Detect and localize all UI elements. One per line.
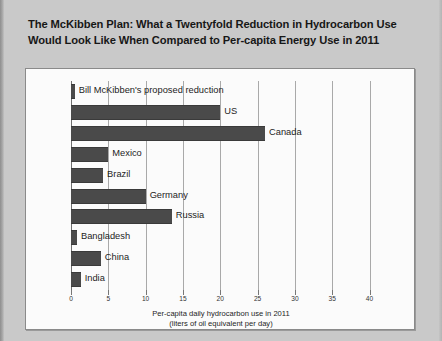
bar-row: China (71, 248, 377, 269)
tick-label-30: 30 (291, 295, 298, 302)
bar-canada (71, 126, 265, 141)
bar-row: India (71, 269, 377, 290)
bar-label: US (224, 104, 237, 118)
x-axis-tick-labels: 0510152025303540 (71, 295, 377, 307)
bar-india (71, 272, 81, 287)
figure-title: The McKibben Plan: What a Twentyfold Red… (28, 16, 428, 48)
bar-germany (71, 189, 146, 204)
tick-label-40: 40 (366, 295, 373, 302)
bar-label: India (85, 271, 105, 285)
tick-label-15: 15 (179, 295, 186, 302)
bar-label: Mexico (112, 146, 141, 160)
x-axis-caption-units: (liters of oil equivalent per day) (26, 319, 416, 329)
plot-area: Bill McKibben's proposed reductionUSCana… (71, 81, 377, 290)
bar-row: Brazil (71, 165, 377, 186)
tick-label-35: 35 (329, 295, 336, 302)
tick-label-25: 25 (254, 295, 261, 302)
tick-label-10: 10 (142, 295, 149, 302)
bar-label: Russia (176, 208, 204, 222)
bar-label: Bill McKibben's proposed reduction (79, 83, 224, 97)
figure-title-line-1: The McKibben Plan: What a Twentyfold Red… (28, 16, 428, 32)
page-left-margin-rule (0, 0, 4, 341)
tick-label-0: 0 (69, 295, 73, 302)
x-axis-caption: Per-capita daily hydrocarbon use in 2011… (26, 309, 416, 329)
bar-row: Russia (71, 206, 377, 227)
bar-label: China (105, 250, 129, 264)
bar-row: Mexico (71, 144, 377, 165)
tick-label-5: 5 (106, 295, 110, 302)
bar-label: Brazil (107, 167, 130, 181)
x-axis-caption-main: Per-capita daily hydrocarbon use in 2011 (26, 309, 416, 319)
bar-china (71, 251, 101, 266)
bar-row: Canada (71, 123, 377, 144)
figure-title-line-2: Would Look Like When Compared to Per-cap… (28, 32, 428, 48)
chart-panel: Bill McKibben's proposed reductionUSCana… (25, 68, 415, 330)
bar-bill-mckibben-s-proposed-reduction (71, 84, 75, 99)
bar-row: Germany (71, 186, 377, 207)
bar-russia (71, 209, 172, 224)
bar-mexico (71, 147, 108, 162)
bar-us (71, 105, 220, 120)
bar-label: Canada (269, 125, 302, 139)
bar-row: US (71, 102, 377, 123)
bar-bangladesh (71, 230, 77, 245)
bar-row: Bill McKibben's proposed reduction (71, 81, 377, 102)
bar-brazil (71, 168, 103, 183)
bar-row: Bangladesh (71, 227, 377, 248)
bar-label: Germany (150, 188, 188, 202)
bar-label: Bangladesh (81, 229, 130, 243)
tick-label-20: 20 (217, 295, 224, 302)
